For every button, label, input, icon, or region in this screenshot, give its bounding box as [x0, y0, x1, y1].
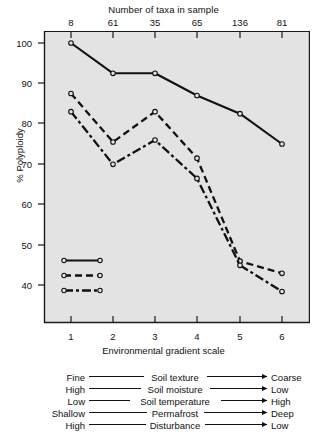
- figure-container: Number of taxa in sample 8 61 35 65 136 …: [0, 0, 327, 437]
- chart-svg: [0, 0, 327, 437]
- plot-area-background: [44, 31, 310, 323]
